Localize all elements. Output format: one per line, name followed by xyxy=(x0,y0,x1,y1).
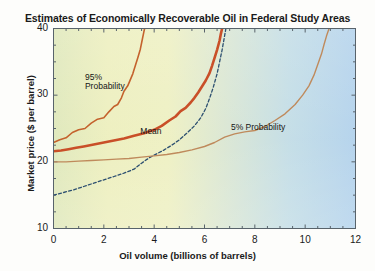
annotation-mean: Mean xyxy=(140,127,161,137)
chart-figure: Estimates of Economically Recoverable Oi… xyxy=(0,0,375,271)
plot-area xyxy=(0,0,375,271)
annotation-5-probability: 5% Probability xyxy=(231,123,285,133)
annotation-95-probability: 95%Probability xyxy=(85,73,125,93)
annotation-95-line2: Probability xyxy=(85,82,125,92)
plot-background-sheen xyxy=(54,29,356,229)
